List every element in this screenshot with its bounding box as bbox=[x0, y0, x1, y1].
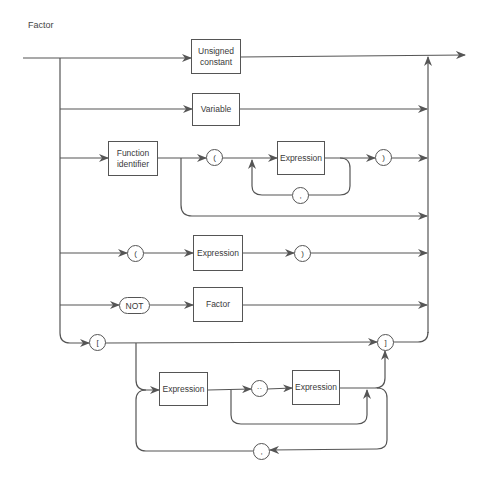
set-open-bracket-label: [ bbox=[96, 338, 98, 347]
set-comma-label: , bbox=[260, 447, 262, 456]
set-expression-1-label: Expression bbox=[162, 384, 204, 395]
set-expression-2-label: Expression bbox=[295, 382, 337, 393]
unsigned-constant-box: Unsigned constant bbox=[191, 39, 241, 74]
set-expression-1-box: Expression bbox=[159, 372, 208, 406]
paren-close-label: ) bbox=[301, 249, 304, 258]
paren-close-circle: ) bbox=[294, 245, 311, 262]
variable-label: Variable bbox=[201, 104, 232, 115]
not-keyword-label: NOT bbox=[126, 301, 144, 311]
func-close-paren-circle: ) bbox=[375, 149, 392, 166]
set-close-bracket-circle: ] bbox=[377, 334, 394, 351]
set-range-dots-circle: ·· bbox=[251, 380, 268, 397]
paren-open-label: ( bbox=[134, 249, 137, 258]
func-open-paren-label: ( bbox=[213, 153, 216, 162]
func-open-paren-circle: ( bbox=[206, 149, 223, 166]
not-keyword-oval: NOT bbox=[119, 297, 150, 314]
set-close-bracket-label: ] bbox=[384, 338, 386, 347]
func-close-paren-label: ) bbox=[382, 153, 385, 162]
function-identifier-box: Function identifier bbox=[108, 141, 158, 176]
variable-box: Variable bbox=[192, 93, 240, 126]
func-comma-label: , bbox=[299, 191, 301, 200]
paren-expression-label: Expression bbox=[197, 248, 239, 259]
set-comma-circle: , bbox=[253, 443, 270, 460]
set-range-dots-label: ·· bbox=[257, 384, 262, 393]
set-open-bracket-circle: [ bbox=[89, 334, 106, 351]
func-expression-label: Expression bbox=[280, 153, 322, 164]
set-expression-2-box: Expression bbox=[292, 370, 340, 405]
func-expression-box: Expression bbox=[277, 141, 325, 175]
unsigned-constant-label: Unsigned constant bbox=[192, 46, 240, 68]
not-factor-box: Factor bbox=[193, 287, 243, 322]
paren-expression-box: Expression bbox=[193, 235, 243, 271]
function-identifier-label: Function identifier bbox=[109, 148, 157, 170]
not-factor-label: Factor bbox=[206, 299, 230, 310]
paren-open-circle: ( bbox=[127, 245, 144, 262]
func-comma-circle: , bbox=[292, 187, 309, 204]
diagram-connectors bbox=[0, 0, 490, 477]
